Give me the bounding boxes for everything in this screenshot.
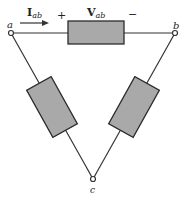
node-b-terminal <box>173 31 178 36</box>
resistor-ca <box>27 77 78 138</box>
node-a-label: a <box>7 19 13 30</box>
node-c-label: c <box>90 185 95 195</box>
node-b-label: b <box>173 20 179 31</box>
node-c-terminal <box>91 177 96 182</box>
node-a-terminal <box>9 31 14 36</box>
plus-sign: + <box>57 9 66 22</box>
resistor-bc <box>109 77 160 138</box>
resistor-ab <box>68 21 124 44</box>
current-label: Iab <box>27 6 42 20</box>
minus-sign: − <box>128 8 137 21</box>
delta-network-diagram: a b c Iab + Vab − <box>0 0 185 198</box>
current-arrow-icon <box>42 20 49 26</box>
voltage-label: Vab <box>86 6 105 20</box>
